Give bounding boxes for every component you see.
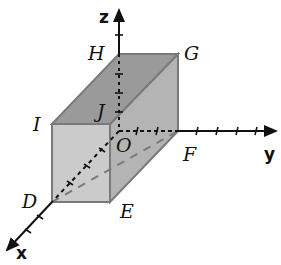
vertex-label-i: I [32, 113, 41, 135]
x-axis-label: x [16, 243, 27, 263]
y-axis-label: y [264, 144, 275, 164]
front-face [52, 124, 110, 202]
coordinate-box-diagram: z y x H G I J O F D E [0, 0, 281, 265]
vertex-label-h: H [87, 42, 105, 64]
y-tick [216, 127, 218, 135]
z-axis-label: z [99, 7, 109, 27]
y-tick [255, 127, 257, 135]
vertex-label-e: E [119, 200, 134, 222]
vertex-label-f: F [182, 143, 197, 165]
vertex-label-o: O [116, 134, 132, 156]
vertex-label-g: G [184, 42, 199, 64]
vertex-label-d: D [21, 190, 37, 212]
y-tick [196, 127, 198, 135]
y-tick [236, 127, 238, 135]
